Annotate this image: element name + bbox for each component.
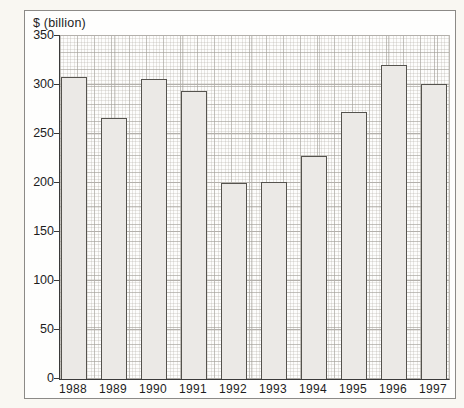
plot-area [59,35,450,380]
screenshot-root: { "chart_data": { "type": "bar", "title"… [0,0,464,408]
y-tick-label-250: 250 [26,125,54,141]
bar-1989 [101,118,127,379]
x-label-1989: 1989 [93,382,133,397]
x-label-1991: 1991 [173,382,213,397]
y-tick-label-100: 100 [26,272,54,288]
y-tick-250 [54,133,60,135]
x-label-1997: 1997 [413,382,453,397]
bar-1992 [221,183,247,379]
y-tick-label-200: 200 [26,174,54,190]
chart-panel: $ (billion) 0501001502002503003501988198… [24,10,456,399]
bar-1991 [181,91,207,378]
y-tick-label-300: 300 [26,76,54,92]
y-tick-200 [54,182,60,184]
y-tick-label-150: 150 [26,223,54,239]
bar-1993 [261,182,287,379]
x-label-1990: 1990 [133,382,173,397]
bar-1996 [381,65,407,379]
bar-1988 [61,77,87,379]
bar-1990 [141,79,167,379]
x-label-1992: 1992 [213,382,253,397]
x-label-1988: 1988 [53,382,93,397]
y-tick-350 [54,35,60,37]
x-label-1996: 1996 [373,382,413,397]
y-tick-label-0: 0 [26,370,54,386]
y-tick-100 [54,280,60,282]
y-tick-label-350: 350 [26,27,54,43]
bar-1997 [421,84,447,379]
y-tick-label-50: 50 [26,321,54,337]
bar-1995 [341,112,367,379]
x-label-1993: 1993 [253,382,293,397]
y-tick-300 [54,84,60,86]
y-tick-50 [54,329,60,331]
x-label-1994: 1994 [293,382,333,397]
y-tick-0 [54,378,60,380]
bar-1994 [301,156,327,378]
x-label-1995: 1995 [333,382,373,397]
y-tick-150 [54,231,60,233]
